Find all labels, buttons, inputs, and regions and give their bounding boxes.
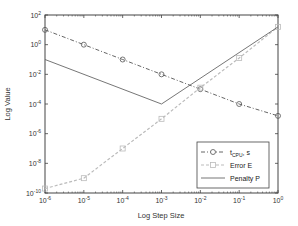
- x-tick-label: 10-6: [39, 195, 51, 204]
- y-tick-label: 100: [30, 39, 41, 48]
- y-tick-label: 10-10: [26, 188, 41, 197]
- x-tick-label: 10-1: [233, 195, 245, 204]
- y-tick-label: 102: [30, 10, 41, 19]
- y-tick-label: 10-6: [29, 128, 41, 137]
- series-line: [45, 27, 278, 104]
- x-tick-label: 10-2: [194, 195, 206, 204]
- x-tick-label: 10-5: [78, 195, 90, 204]
- legend: tCPU, sError EPenalty P: [197, 142, 269, 188]
- x-tick-label: 10-3: [155, 195, 167, 204]
- x-tick-label: 100: [273, 195, 284, 204]
- y-tick-label: 10-4: [29, 99, 41, 108]
- y-axis-label: Log Value: [3, 87, 12, 120]
- x-axis-label: Log Step Size: [138, 211, 185, 220]
- circle-marker: [159, 72, 164, 77]
- legend-entry: Penalty P: [230, 175, 260, 183]
- y-tick-label: 10-8: [29, 158, 41, 167]
- y-tick-label: 10-2: [29, 69, 41, 78]
- chart: 10-610-510-410-310-210-110010-1010-810-6…: [0, 0, 298, 226]
- x-tick-label: 10-4: [117, 195, 129, 204]
- legend-entry: Error E: [230, 162, 253, 169]
- circle-marker: [81, 42, 86, 47]
